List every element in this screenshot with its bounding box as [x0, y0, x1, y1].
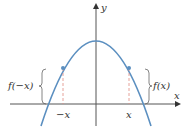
diagram-canvas: y x f(−x) f(x) −x x — [0, 0, 184, 131]
right-tick-label: x — [126, 109, 132, 120]
right-point — [127, 66, 131, 70]
left-tick-label: −x — [56, 109, 70, 120]
y-axis-label: y — [100, 2, 107, 13]
left-brace — [39, 69, 46, 104]
x-axis-label: x — [174, 90, 180, 101]
right-bracket-label: f(x) — [152, 80, 170, 91]
right-brace — [145, 69, 152, 104]
even-function-diagram: y x f(−x) f(x) −x x — [0, 0, 184, 131]
left-bracket-label: f(−x) — [7, 80, 34, 91]
left-point — [61, 66, 65, 70]
